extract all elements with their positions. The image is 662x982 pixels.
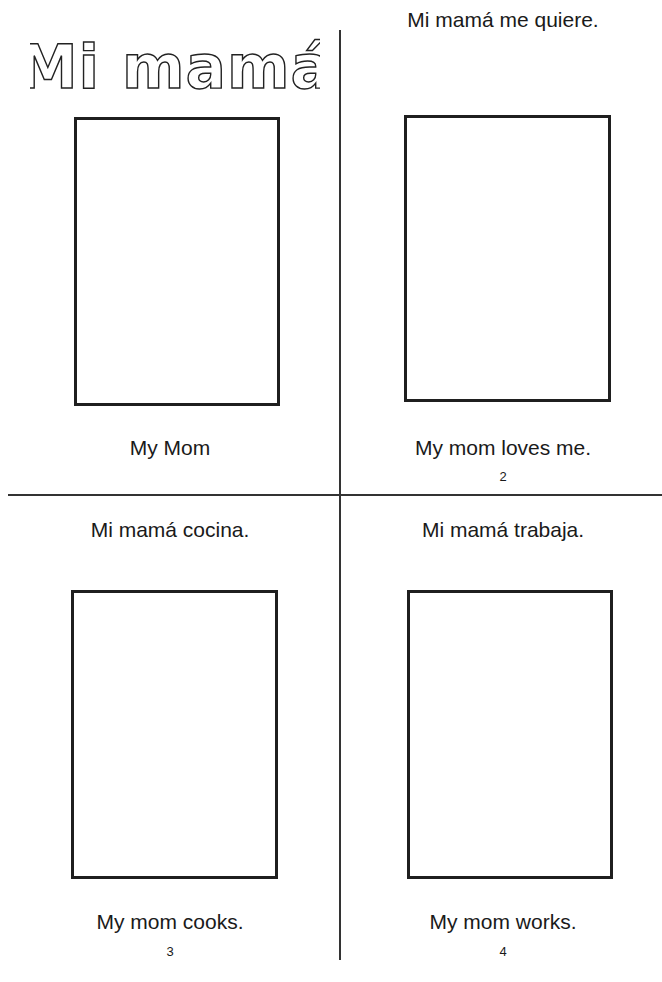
drawing-box-1[interactable] <box>74 117 280 406</box>
caption-4: My mom works. <box>338 910 662 934</box>
drawing-box-4[interactable] <box>407 590 613 879</box>
heading-3: Mi mamá cocina. <box>5 518 335 542</box>
cover-title: Mi mamá <box>30 26 320 106</box>
caption-1: My Mom <box>5 436 335 460</box>
horizontal-fold-line <box>8 494 662 496</box>
heading-4: Mi mamá trabaja. <box>338 518 662 542</box>
drawing-box-3[interactable] <box>71 590 278 879</box>
page-number-2: 2 <box>338 469 662 484</box>
caption-2: My mom loves me. <box>338 436 662 460</box>
heading-2: Mi mamá me quiere. <box>338 8 662 32</box>
cover-title-text: Mi mamá <box>30 32 320 102</box>
drawing-box-2[interactable] <box>404 115 611 402</box>
page-number-3: 3 <box>5 944 335 959</box>
caption-3: My mom cooks. <box>5 910 335 934</box>
page-number-4: 4 <box>338 944 662 959</box>
